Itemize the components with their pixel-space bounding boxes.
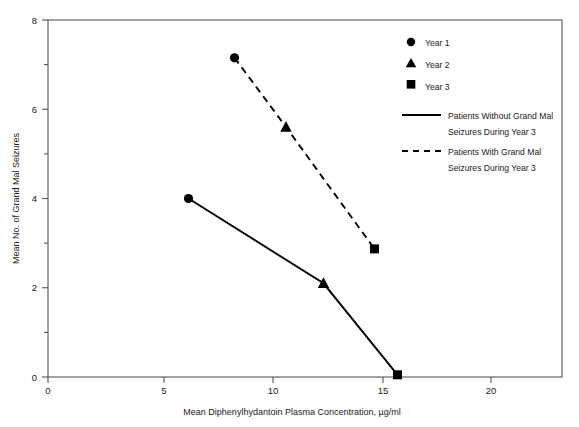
x-tick-label: 15 [378,385,389,396]
y-axis-tick-labels: 8 6 4 2 0 [32,15,37,383]
x-tick-label: 0 [45,385,50,396]
series-line-dashed [235,58,375,249]
legend-marker-label: Year 3 [425,82,450,92]
legend-line-label-2: Seizures During Year 3 [448,163,536,173]
x-axis-ticks [48,377,491,383]
data-point-square-year-3 [370,244,379,253]
y-tick-label: 6 [32,104,37,115]
legend-marker-label: Year 2 [425,60,450,70]
legend-line-entries: Patients Without Grand Mal Seizures Duri… [402,111,553,173]
plot-frame [48,20,562,377]
y-axis-title: Mean No. of Grand Mal Seizures [11,132,21,264]
legend-square-icon [407,80,416,89]
y-tick-label: 8 [32,15,37,26]
legend-line-label-2: Seizures During Year 3 [448,127,536,137]
x-axis-tick-labels: 0 5 10 15 20 [45,385,496,396]
data-point-circle-year-1 [184,194,193,203]
series-with-grand-mal-seizures [230,53,379,253]
y-tick-label: 4 [32,193,37,204]
legend-triangle-icon [406,58,417,67]
data-point-circle-year-1 [230,53,239,62]
x-tick-label: 5 [161,385,166,396]
x-axis-title: Mean Diphenylhydantoin Plasma Concentrat… [183,407,400,417]
data-point-square-year-3 [393,370,402,379]
series-without-grand-mal-seizures [184,194,402,379]
legend-markers: Year 1 Year 2 Year 3 [406,38,450,92]
figure-container: 8 6 4 2 0 0 5 10 15 20 Mean Diphenylhyda… [0,0,579,427]
legend-line-label-1: Patients Without Grand Mal [448,111,553,121]
x-tick-label: 20 [486,385,497,396]
x-tick-label: 10 [268,385,279,396]
seizure-concentration-line-chart: 8 6 4 2 0 0 5 10 15 20 Mean Diphenylhyda… [0,0,579,427]
y-tick-label: 0 [32,372,37,383]
legend-circle-icon [407,38,415,46]
y-axis-major-ticks [42,20,48,377]
data-point-triangle-year-2 [318,277,329,288]
series-line-solid [189,199,398,375]
legend-line-label-1: Patients With Grand Mal [448,147,541,157]
data-point-triangle-year-2 [280,121,291,132]
legend-marker-label: Year 1 [425,38,450,48]
y-tick-label: 2 [32,282,37,293]
